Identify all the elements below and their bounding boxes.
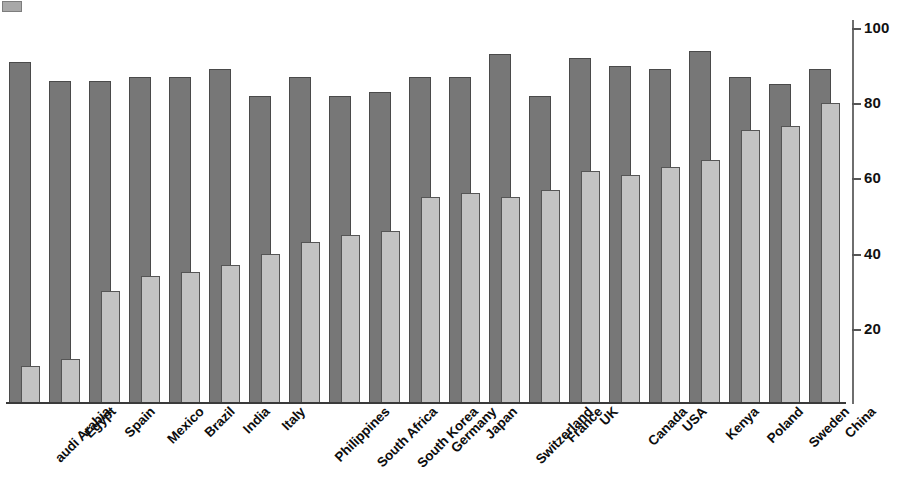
bar-front: [821, 103, 840, 404]
bar-front: [21, 366, 40, 404]
bar-group: [609, 8, 649, 404]
category-label: Spain: [121, 404, 157, 440]
axis-tick-label: 100: [864, 20, 890, 35]
category-label: Italy: [279, 404, 308, 433]
axis-tick-label: 80: [864, 95, 881, 110]
axis-spine: [852, 20, 854, 404]
axis-tick: [852, 178, 861, 180]
bar-group: [209, 8, 249, 404]
axis-tick-label: 60: [864, 170, 881, 185]
bar-group: [489, 8, 529, 404]
bar-front: [701, 160, 720, 404]
bar-group: [369, 8, 409, 404]
axis-tick: [852, 329, 861, 331]
category-label: UK: [596, 404, 620, 428]
bar-front: [781, 126, 800, 404]
bar-front: [181, 272, 200, 404]
bar-group: [329, 8, 369, 404]
bar-group: [89, 8, 129, 404]
bar-group: [129, 8, 169, 404]
bar-group: [409, 8, 449, 404]
axis-tick-label: 20: [864, 321, 881, 336]
bar-group: [569, 8, 609, 404]
axis-tick: [852, 28, 861, 30]
category-label: Brazil: [201, 404, 237, 440]
bar-front: [261, 254, 280, 404]
bar-group: [529, 8, 569, 404]
bar-group: [809, 8, 849, 404]
bar-chart: 20406080100 audi ArabiaEgyptSpainMexicoB…: [0, 0, 914, 496]
bar-group: [649, 8, 689, 404]
bar-group: [689, 8, 729, 404]
bars-layer: [6, 8, 846, 404]
bar-front: [461, 193, 480, 404]
plot-area: [6, 8, 846, 404]
bar-group: [289, 8, 329, 404]
bar-front: [501, 197, 520, 404]
category-axis-labels: audi ArabiaEgyptSpainMexicoBrazilIndiaIt…: [6, 404, 846, 496]
category-label: Kenya: [723, 404, 762, 443]
bar-back: [49, 81, 71, 404]
axis-tick-label: 40: [864, 246, 881, 261]
bar-back: [9, 62, 31, 404]
bar-front: [381, 231, 400, 404]
bar-front: [341, 235, 360, 404]
bar-front: [101, 291, 120, 404]
bar-front: [581, 171, 600, 404]
bar-group: [769, 8, 809, 404]
bar-front: [61, 359, 80, 404]
bar-group: [9, 8, 49, 404]
axis-tick: [852, 254, 861, 256]
bar-front: [141, 276, 160, 404]
bar-front: [661, 167, 680, 404]
bar-group: [249, 8, 289, 404]
bar-front: [421, 197, 440, 404]
category-label: Mexico: [164, 404, 207, 447]
bar-front: [541, 190, 560, 404]
bar-front: [741, 130, 760, 404]
axis-tick: [852, 103, 861, 105]
bar-front: [621, 175, 640, 404]
bar-front: [221, 265, 240, 404]
category-label: India: [240, 404, 273, 437]
bar-group: [49, 8, 89, 404]
bar-front: [301, 242, 320, 404]
bar-group: [169, 8, 209, 404]
bar-group: [449, 8, 489, 404]
value-axis: 20406080100: [852, 8, 914, 404]
bar-group: [729, 8, 769, 404]
category-label: Poland: [764, 404, 806, 446]
